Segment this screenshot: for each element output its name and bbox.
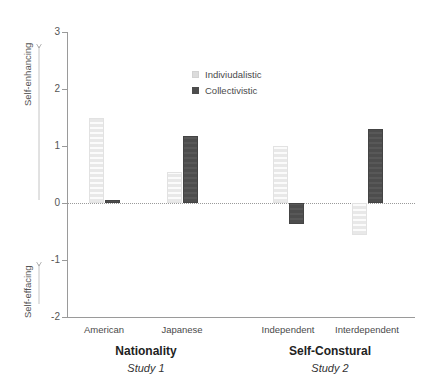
y-tick-label-2: 2	[54, 84, 60, 94]
legend-item-collectivistic: Collectivistic	[192, 82, 262, 98]
group-subtitle-study-1: Study 1	[127, 362, 164, 374]
legend: Indiviudalistic Collectivistic	[192, 66, 262, 98]
y-tick-label-3: 3	[54, 27, 60, 37]
y-tick-label-neg2: -2	[51, 312, 60, 322]
x-category-label-american: American	[84, 324, 124, 335]
bar-japanese-collectivistic	[183, 136, 198, 203]
y-axis-positive-annotation: Self-enhancing	[22, 43, 33, 106]
bar-interdependent-indiviudalistic	[352, 203, 367, 235]
legend-item-individualistic: Indiviudalistic	[192, 66, 262, 82]
bar-american-collectivistic	[105, 200, 120, 203]
y-tick-mark-2	[62, 89, 67, 90]
y-tick-mark-1	[62, 146, 67, 147]
bar-japanese-indiviudalistic	[167, 172, 182, 203]
group-title-nationality: Nationality	[115, 344, 176, 358]
x-category-label-interdependent: Interdependent	[335, 324, 399, 335]
legend-swatch-light-icon	[192, 71, 199, 78]
bar-american-indiviudalistic	[89, 118, 104, 203]
group-subtitle-study-2: Study 2	[311, 362, 348, 374]
bar-independent-collectivistic	[289, 203, 304, 224]
x-axis-line	[67, 317, 415, 318]
y-axis-negative-annotation: Self-effacing	[22, 265, 33, 318]
chart-figure: 3 2 1 0 -1 -2 Self-enhancing Self-effaci…	[0, 0, 434, 392]
legend-swatch-dark-icon	[192, 87, 199, 94]
legend-label-individualistic: Indiviudalistic	[205, 69, 262, 80]
bar-interdependent-collectivistic	[368, 129, 383, 203]
legend-label-collectivistic: Collectivistic	[205, 85, 257, 96]
y-tick-mark-neg2	[62, 317, 67, 318]
x-category-label-japanese: Japanese	[161, 324, 202, 335]
y-tick-label-neg1: -1	[51, 255, 60, 265]
bar-independent-indiviudalistic	[273, 146, 288, 203]
x-category-label-independent: Independent	[262, 324, 315, 335]
group-title-self-constural: Self-Constural	[289, 344, 371, 358]
y-tick-label-1: 1	[54, 141, 60, 151]
y-tick-mark-0	[62, 203, 67, 204]
y-tick-label-0: 0	[54, 198, 60, 208]
y-axis-line	[67, 32, 68, 318]
y-tick-mark-neg1	[62, 260, 67, 261]
y-tick-mark-3	[62, 32, 67, 33]
